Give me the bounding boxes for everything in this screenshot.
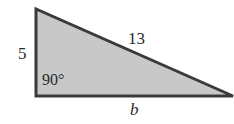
right-triangle-diagram: 5 13 90° b bbox=[0, 0, 234, 124]
triangle-shape bbox=[0, 0, 234, 124]
hypotenuse-label: 13 bbox=[128, 30, 145, 47]
right-angle-label: 90° bbox=[42, 72, 64, 88]
triangle-polygon bbox=[36, 9, 233, 96]
vertical-leg-label: 5 bbox=[18, 45, 27, 62]
base-label: b bbox=[130, 101, 139, 118]
